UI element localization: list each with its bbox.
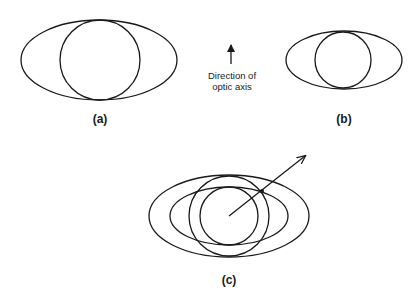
figure-canvas: (a) (b) (c) Direction of optic axis bbox=[0, 0, 418, 298]
panel-b-label: (b) bbox=[336, 112, 351, 126]
diagram-svg bbox=[0, 0, 418, 298]
panel-c-wave-vector-arrow-icon bbox=[229, 156, 305, 216]
optic-axis-label-line2: optic axis bbox=[208, 81, 256, 92]
panel-c-intersection-dot bbox=[260, 189, 264, 193]
optic-axis-label-line1: Direction of bbox=[208, 70, 256, 81]
panel-a-circle bbox=[60, 20, 140, 100]
panel-b-ellipse bbox=[286, 31, 402, 89]
panel-a-label: (a) bbox=[93, 112, 108, 126]
optic-axis-label: Direction of optic axis bbox=[208, 70, 256, 92]
panel-a-ellipse bbox=[21, 20, 177, 100]
panel-c-label: (c) bbox=[222, 273, 237, 287]
panel-b-circle bbox=[315, 32, 371, 88]
